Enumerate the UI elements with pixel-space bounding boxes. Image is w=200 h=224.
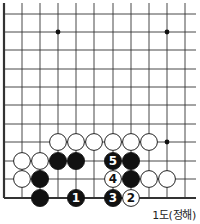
black-stone-icon: [122, 152, 139, 169]
black-stone: [31, 170, 48, 187]
white-stone: [105, 134, 122, 151]
move-number-label: 2: [127, 191, 135, 205]
white-stone: [159, 171, 176, 188]
move-number-label: 4: [109, 172, 117, 186]
white-stone-icon: [50, 134, 67, 151]
star-point-icon: [165, 30, 170, 35]
move-number-label: 3: [109, 191, 117, 205]
white-stone-icon: [32, 153, 49, 170]
black-stone: 3: [104, 189, 121, 206]
black-stone-icon: [31, 189, 48, 206]
black-stone: [122, 170, 139, 187]
white-stone: [68, 134, 85, 151]
white-stone-icon: [123, 134, 140, 151]
black-stone-icon: [31, 170, 48, 187]
white-stone-icon: [68, 134, 85, 151]
white-stone: [86, 134, 103, 151]
star-point-icon: [165, 140, 170, 145]
diagram-caption: 1도(정해): [152, 206, 196, 222]
white-stone-icon: [141, 171, 158, 188]
move-number-label: 1: [72, 191, 80, 205]
white-stone: [50, 134, 67, 151]
star-point-icon: [56, 30, 61, 35]
white-stone: [141, 134, 158, 151]
move-number-label: 5: [109, 154, 117, 168]
white-stone-icon: [14, 153, 31, 170]
black-stone-icon: [67, 152, 84, 169]
black-stone-icon: [122, 170, 139, 187]
black-stone: [67, 152, 84, 169]
white-stone-icon: [105, 134, 122, 151]
black-stone: [49, 152, 66, 169]
black-stone: [31, 189, 48, 206]
stones: 54132: [14, 134, 176, 207]
white-stone: [123, 134, 140, 151]
white-stone: [32, 153, 49, 170]
go-board: 54132: [0, 0, 200, 224]
black-stone: 5: [104, 152, 121, 169]
white-stone-icon: [141, 134, 158, 151]
white-stone: [14, 153, 31, 170]
white-stone: 2: [123, 190, 140, 207]
white-stone: 4: [105, 171, 122, 188]
black-stone: [122, 152, 139, 169]
white-stone-icon: [86, 134, 103, 151]
white-stone: [141, 171, 158, 188]
black-stone-icon: [49, 152, 66, 169]
white-stone-icon: [159, 171, 176, 188]
black-stone: 1: [67, 189, 84, 206]
white-stone-icon: [14, 171, 31, 188]
white-stone: [14, 171, 31, 188]
